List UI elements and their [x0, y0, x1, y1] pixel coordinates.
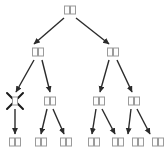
tree-node[interactable]	[35, 138, 47, 147]
tofu-glyph-icon	[138, 138, 144, 147]
tree-node[interactable]	[152, 138, 164, 147]
tree-edge	[137, 109, 150, 134]
tofu-glyph-icon	[134, 97, 140, 106]
tree-node[interactable]	[107, 48, 119, 57]
tree-node-label	[152, 138, 164, 147]
tofu-glyph-icon	[15, 138, 21, 147]
tree-edge	[16, 60, 34, 92]
tofu-glyph-icon	[66, 138, 72, 147]
tree-edge	[53, 109, 64, 134]
tofu-glyph-icon	[50, 97, 56, 106]
tofu-glyph-icon	[94, 138, 100, 147]
tree-edge	[92, 109, 96, 134]
tree-node-label	[107, 48, 119, 57]
tree-node[interactable]	[44, 97, 56, 106]
tofu-glyph-icon	[38, 48, 44, 57]
tree-node[interactable]	[60, 138, 72, 147]
tree-node-label	[9, 138, 21, 147]
tree-edge	[117, 60, 132, 92]
tree-node-label	[112, 138, 124, 147]
tree-node[interactable]	[64, 6, 76, 15]
tree-node[interactable]	[93, 97, 105, 106]
tree-node-label	[128, 97, 140, 106]
tree-node[interactable]	[88, 138, 100, 147]
tofu-glyph-icon	[41, 138, 47, 147]
tofu-glyph-icon	[99, 97, 105, 106]
tree-edge	[41, 109, 47, 134]
tree-edge	[34, 18, 64, 44]
tree-node-label	[12, 97, 18, 106]
tree-diagram	[0, 0, 165, 153]
tree-node-label	[93, 97, 105, 106]
tree-node[interactable]	[128, 97, 140, 106]
tofu-glyph-icon	[70, 6, 76, 15]
edge-arrows	[15, 18, 150, 134]
tofu-glyph-icon	[113, 48, 119, 57]
tree-edge	[100, 60, 109, 92]
tofu-glyph-icon	[118, 138, 124, 147]
tree-node[interactable]	[12, 97, 18, 106]
tree-edges-layer	[0, 0, 165, 153]
tree-node-label	[60, 138, 72, 147]
tree-edge	[102, 109, 115, 134]
tree-node-label	[132, 138, 144, 147]
tree-node-label	[88, 138, 100, 147]
tree-node-label	[32, 48, 44, 57]
tree-node[interactable]	[132, 138, 144, 147]
tree-edge	[128, 109, 131, 134]
tofu-glyph-icon	[12, 97, 18, 106]
tree-node[interactable]	[9, 138, 21, 147]
tree-node[interactable]	[32, 48, 44, 57]
tofu-glyph-icon	[158, 138, 164, 147]
tree-edge	[42, 60, 50, 92]
tree-node-label	[35, 138, 47, 147]
tree-edge	[76, 18, 109, 44]
tree-node[interactable]	[112, 138, 124, 147]
tree-node-label	[44, 97, 56, 106]
tree-node-label	[64, 6, 76, 15]
